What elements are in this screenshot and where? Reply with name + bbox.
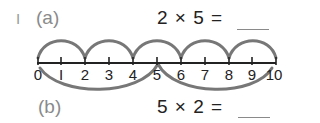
tick-label-5: 5	[153, 66, 161, 83]
tick-label-4: 4	[129, 66, 137, 83]
arc-4-6	[133, 41, 181, 58]
tick-label-6: 6	[177, 66, 185, 83]
tick-label-1: I	[59, 66, 63, 83]
tick-label-8: 8	[225, 66, 233, 83]
jumps-of-two-arcs	[38, 41, 276, 58]
arc-6-8	[181, 41, 229, 58]
arc-8-10	[229, 41, 276, 58]
part-b-answer-blank[interactable]	[238, 117, 270, 118]
tick-label-2: 2	[81, 66, 89, 83]
tick-label-9: 9	[248, 66, 256, 83]
tick-label-7: 7	[201, 66, 209, 83]
tick-labels: 0 I 2 3 4 5 6 7 8 9 10	[34, 66, 283, 83]
tick-label-0: 0	[34, 66, 42, 83]
arc-0-2	[38, 41, 85, 58]
part-b-label: (b)	[38, 96, 61, 118]
arc-2-4	[85, 41, 133, 58]
tick-label-3: 3	[105, 66, 113, 83]
tick-label-10: 10	[266, 66, 283, 83]
part-b-equation: 5 × 2 =	[157, 96, 223, 118]
arc-0-5	[40, 64, 158, 89]
